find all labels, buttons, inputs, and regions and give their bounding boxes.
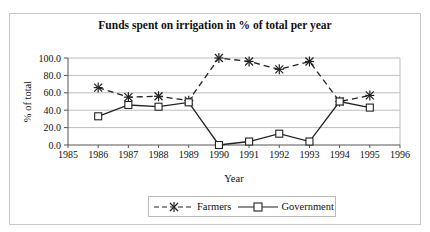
government-legend-icon — [237, 201, 279, 213]
square-marker-icon — [125, 101, 132, 108]
square-marker-icon — [366, 104, 373, 111]
square-marker-icon — [306, 138, 313, 145]
x-tick-label: 1988 — [149, 149, 169, 160]
y-axis-label: % of total — [22, 81, 33, 122]
x-tick-label: 1995 — [360, 149, 380, 160]
asterisk-marker-icon — [124, 92, 133, 102]
square-marker-icon — [155, 103, 162, 110]
asterisk-marker-icon — [365, 90, 374, 100]
x-tick-label: 1992 — [269, 149, 289, 160]
legend-government-label: Government — [281, 201, 334, 212]
x-tick-label: 1991 — [239, 149, 259, 160]
legend: Farmers Government — [148, 196, 336, 217]
asterisk-marker-icon — [275, 64, 284, 74]
y-tick-label: 80.0 — [44, 70, 62, 81]
square-marker-icon — [276, 130, 283, 137]
asterisk-marker-icon — [154, 91, 163, 101]
farmers-series — [94, 53, 375, 107]
x-tick-label: 1985 — [58, 149, 78, 160]
asterisk-marker-icon — [94, 83, 103, 93]
x-tick-label: 1993 — [299, 149, 319, 160]
legend-farmers-label: Farmers — [197, 201, 231, 212]
x-axis-label: Year — [224, 173, 244, 184]
square-marker-icon — [185, 99, 192, 106]
square-marker-icon — [215, 142, 222, 149]
y-tick-label: 100.0 — [39, 53, 62, 64]
y-tick-label: 40.0 — [44, 105, 62, 116]
square-marker-icon — [336, 98, 343, 105]
x-tick-label: 1986 — [88, 149, 108, 160]
x-tick-label: 1989 — [179, 149, 199, 160]
square-marker-icon — [95, 113, 102, 120]
y-tick-label: 60.0 — [44, 87, 62, 98]
farmers-legend-icon — [153, 201, 195, 213]
x-tick-label: 1987 — [118, 149, 138, 160]
government-series — [95, 98, 374, 149]
square-marker-icon — [246, 138, 253, 145]
x-tick-label: 1990 — [209, 149, 229, 160]
asterisk-marker-icon — [305, 56, 314, 66]
x-tick-label: 1994 — [330, 149, 350, 160]
asterisk-marker-icon — [245, 56, 254, 66]
x-tick-label: 1996 — [390, 149, 410, 160]
y-tick-label: 20.0 — [44, 122, 62, 133]
asterisk-marker-icon — [214, 53, 223, 63]
